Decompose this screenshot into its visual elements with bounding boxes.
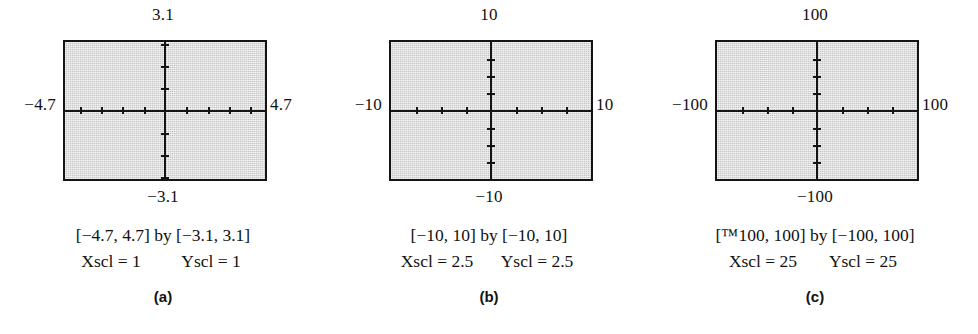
y-tick xyxy=(161,177,169,179)
y-tick xyxy=(813,145,821,147)
y-tick xyxy=(487,59,495,61)
panel-b-scl-line: Xscl = 2.5 Yscl = 2.5 xyxy=(389,248,589,274)
panel-a-right-label: 4.7 xyxy=(270,95,292,115)
y-tick xyxy=(487,76,495,78)
x-tick xyxy=(122,107,124,114)
panel-c-left-label: −100 xyxy=(672,95,708,115)
panel-c-top-label: 100 xyxy=(802,0,828,30)
x-tick xyxy=(867,107,869,114)
panel-c-screen xyxy=(715,40,919,181)
x-tick xyxy=(144,107,146,114)
y-tick xyxy=(487,93,495,95)
panel-b-y-axis xyxy=(490,42,492,179)
x-tick xyxy=(416,107,418,114)
x-tick xyxy=(742,107,744,114)
panel-c-y-axis xyxy=(816,42,818,179)
x-tick xyxy=(101,107,103,114)
x-tick xyxy=(250,107,252,114)
panel-c-bottom-label: −100 xyxy=(797,180,833,214)
panel-c-range: [™100, 100] by [−100, 100] xyxy=(715,222,915,248)
panel-b-range: [−10, 10] by [−10, 10] xyxy=(389,222,589,248)
x-tick xyxy=(186,107,188,114)
y-tick xyxy=(813,162,821,164)
panel-a-y-axis xyxy=(164,42,166,179)
x-tick xyxy=(566,107,568,114)
viewing-windows-figure: 3.1 −4.7 4.7 −3.1 [−4.7, 4.7] by [−3.1, … xyxy=(0,0,978,334)
panel-a-range: [−4.7, 4.7] by [−3.1, 3.1] xyxy=(63,222,263,248)
x-tick xyxy=(792,107,794,114)
panel-c-screen-block: −100 100 xyxy=(652,30,978,180)
y-tick xyxy=(161,155,169,157)
panel-a-screen xyxy=(63,40,267,181)
y-tick xyxy=(813,128,821,130)
y-tick xyxy=(161,66,169,68)
y-tick xyxy=(487,128,495,130)
panel-a-xscl: Xscl = 1 xyxy=(63,248,159,274)
x-tick xyxy=(767,107,769,114)
panel-a-tag: (a) xyxy=(154,288,172,305)
y-tick xyxy=(161,88,169,90)
x-tick xyxy=(80,107,82,114)
panel-a-scl-line: Xscl = 1 Yscl = 1 xyxy=(63,248,263,274)
x-tick xyxy=(541,107,543,114)
panel-b: 10 −10 10 −10 [−10, 10] by [−10, 10] Xsc… xyxy=(326,0,652,334)
panel-c-right-label: 100 xyxy=(922,95,948,115)
panel-b-screen xyxy=(389,40,593,181)
panel-a: 3.1 −4.7 4.7 −3.1 [−4.7, 4.7] by [−3.1, … xyxy=(0,0,326,334)
y-tick xyxy=(487,162,495,164)
panel-c-caption: [™100, 100] by [−100, 100] Xscl = 25 Ysc… xyxy=(715,222,915,274)
y-tick xyxy=(813,76,821,78)
panel-b-left-label: −10 xyxy=(355,95,382,115)
x-tick xyxy=(208,107,210,114)
panel-c-scl-line: Xscl = 25 Yscl = 25 xyxy=(715,248,915,274)
panel-b-right-label: 10 xyxy=(596,95,613,115)
panel-b-screen-block: −10 10 xyxy=(326,30,652,180)
panel-a-screen-block: −4.7 4.7 xyxy=(0,30,326,180)
panel-a-yscl: Yscl = 1 xyxy=(159,248,263,274)
panel-b-xscl: Xscl = 2.5 xyxy=(389,248,485,274)
x-tick xyxy=(441,107,443,114)
y-tick xyxy=(161,44,169,46)
x-tick xyxy=(516,107,518,114)
panel-b-caption: [−10, 10] by [−10, 10] Xscl = 2.5 Yscl =… xyxy=(389,222,589,274)
y-tick xyxy=(487,145,495,147)
panel-c-xscl: Xscl = 25 xyxy=(715,248,811,274)
panel-b-yscl: Yscl = 2.5 xyxy=(485,248,589,274)
panel-a-caption: [−4.7, 4.7] by [−3.1, 3.1] Xscl = 1 Yscl… xyxy=(63,222,263,274)
panel-c-tag: (c) xyxy=(806,288,824,305)
panel-a-top-label: 3.1 xyxy=(152,0,174,30)
y-tick xyxy=(813,93,821,95)
panel-c: 100 −100 100 −100 [™100, 100] by [−100, … xyxy=(652,0,978,334)
panel-b-bottom-label: −10 xyxy=(475,180,502,214)
x-tick xyxy=(892,107,894,114)
x-tick xyxy=(842,107,844,114)
panel-b-tag: (b) xyxy=(479,288,498,305)
y-tick xyxy=(813,59,821,61)
x-tick xyxy=(466,107,468,114)
y-tick xyxy=(161,133,169,135)
panel-c-yscl: Yscl = 25 xyxy=(811,248,915,274)
panel-a-bottom-label: −3.1 xyxy=(147,180,179,214)
x-tick xyxy=(229,107,231,114)
panel-a-left-label: −4.7 xyxy=(24,95,56,115)
panel-b-top-label: 10 xyxy=(480,0,497,30)
